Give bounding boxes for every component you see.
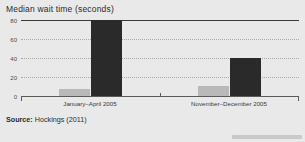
gridline-80: 80: [21, 20, 299, 21]
bar-dark-group2: [230, 58, 261, 96]
y-axis-tick-label: 80: [10, 18, 17, 24]
source-label: Source:: [6, 115, 33, 124]
chart-figure: Median wait time (seconds) 806040200 Jan…: [0, 0, 305, 142]
y-axis-tick-label: 20: [10, 75, 17, 81]
plot-area: 806040200: [21, 20, 299, 96]
source-line: Source: Hockings (2011): [6, 115, 87, 124]
axis-tick-mid: [160, 93, 161, 97]
axis-tick-left: [21, 97, 22, 101]
axis-tick-right: [298, 97, 299, 101]
source-citation: Hockings (2011): [33, 115, 87, 124]
horizontal-scrollbar[interactable]: [232, 135, 302, 139]
bar-light-group1: [59, 89, 90, 96]
y-axis-tick-label: 0: [14, 94, 17, 100]
y-axis-tick-label: 60: [10, 37, 17, 43]
bar-light-group2: [198, 86, 229, 96]
y-axis-tick-label: 40: [10, 56, 17, 62]
chart-title: Median wait time (seconds): [6, 4, 114, 14]
category-label-1: January–April 2005: [63, 100, 116, 107]
gridline-60: 60: [21, 39, 299, 40]
x-axis: [21, 96, 299, 97]
bar-dark-group1: [91, 20, 122, 96]
category-label-2: November–December 2005: [191, 100, 267, 107]
